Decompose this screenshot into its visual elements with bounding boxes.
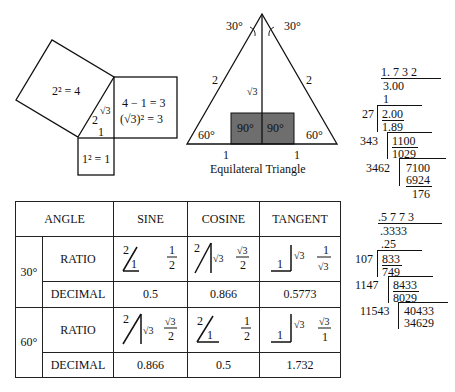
- header-sine: SINE: [114, 202, 188, 237]
- header-angle: ANGLE: [16, 202, 114, 237]
- left-half-base: 1: [223, 148, 229, 162]
- step-2: 1100 1029: [387, 132, 432, 159]
- sine-30-triangle-icon: 2 1 1 2: [115, 237, 187, 277]
- step-3: 40433 34629: [398, 302, 448, 329]
- svg-text:1: 1: [277, 257, 283, 271]
- cosine-60-ratio: 2 1 1 2: [188, 308, 260, 353]
- product-3: 6924: [406, 174, 432, 187]
- svg-text:1: 1: [131, 257, 137, 271]
- svg-text:2: 2: [194, 241, 200, 255]
- vertical-leg-length: √3: [100, 105, 111, 116]
- sine-30-ratio: 2 1 1 2: [114, 237, 188, 282]
- sine-60-decimal: 0.866: [114, 353, 188, 378]
- top-right-angle: 30°: [284, 19, 301, 33]
- svg-text:2: 2: [244, 329, 250, 343]
- header-tangent: TANGENT: [260, 202, 341, 237]
- svg-text:√3: √3: [143, 325, 154, 336]
- equilateral-triangle-diagram: 30° 30° 2 2 √3 60° 60° 90° 90° 1 1 Equil…: [180, 0, 340, 180]
- angle-60: 60°: [16, 308, 43, 378]
- triangle-caption: Equilateral Triangle: [210, 162, 306, 176]
- quotient: .5 7 7 3: [378, 211, 442, 224]
- right-half-base: 1: [294, 148, 300, 162]
- svg-text:√3: √3: [294, 250, 305, 261]
- svg-text:√3: √3: [294, 319, 305, 330]
- altitude-length: √3: [247, 86, 258, 97]
- table-row-60-ratio: 60° RATIO 2 √3 √3 2 2 1 1 2: [16, 308, 341, 353]
- first-subtract: 1: [383, 93, 389, 105]
- header-cosine: COSINE: [188, 202, 260, 237]
- big-square-label: 2² = 4: [52, 84, 80, 98]
- tangent-60-triangle-icon: 1 √3 √3 1: [261, 308, 339, 348]
- svg-text:1: 1: [207, 328, 213, 342]
- cosine-60-triangle-icon: 2 1 1 2: [189, 308, 259, 348]
- svg-text:1: 1: [169, 243, 175, 257]
- cosine-30-ratio: 2 √3 √3 2: [188, 237, 260, 282]
- svg-text:1: 1: [323, 243, 329, 257]
- sine-30-decimal: 0.5: [114, 282, 188, 308]
- divisor-1: 107: [355, 253, 373, 265]
- decimal-label: DECIMAL: [43, 282, 114, 308]
- cosine-30-decimal: 0.866: [188, 282, 260, 308]
- divisor-3: 11543: [360, 305, 390, 317]
- step-1: 833 749: [377, 250, 422, 277]
- svg-text:1: 1: [322, 330, 328, 344]
- svg-text:√3: √3: [213, 253, 224, 264]
- step-3: 7100 6924: [399, 158, 446, 186]
- base-leg-length: 1: [98, 125, 104, 139]
- cosine-60-decimal: 0.5: [188, 353, 260, 378]
- svg-text:√3: √3: [318, 261, 329, 272]
- tangent-30-decimal: 0.5773: [260, 282, 341, 308]
- right-base-angle: 60°: [306, 128, 323, 142]
- tangent-30-triangle-icon: 1 √3 1 √3: [261, 237, 339, 277]
- svg-text:2: 2: [197, 314, 203, 328]
- ratio-label: RATIO: [43, 308, 114, 353]
- small-square-label: 1² = 1: [82, 152, 110, 166]
- tangent-60-decimal: 1.732: [260, 353, 341, 378]
- svg-text:2: 2: [169, 258, 175, 272]
- divisor-2: 1147: [355, 279, 379, 291]
- right-90-label: 90°: [267, 121, 284, 135]
- trig-ratio-table: ANGLE SINE COSINE TANGENT 30° RATIO 2 1 …: [15, 201, 341, 378]
- divisor-1: 27: [362, 108, 374, 120]
- step-2: 8433 8029: [388, 276, 433, 303]
- svg-text:1: 1: [277, 328, 283, 342]
- product-3: 34629: [404, 317, 448, 329]
- svg-text:2: 2: [123, 312, 129, 326]
- divisor-2: 343: [360, 135, 378, 147]
- decimal-label: DECIMAL: [43, 353, 114, 378]
- right-square-line2: (√3)² = 3: [120, 112, 163, 126]
- first-subtract: .25: [381, 238, 396, 250]
- svg-text:√3: √3: [319, 316, 330, 327]
- header-row: ANGLE SINE COSINE TANGENT: [16, 202, 341, 237]
- step-1: 2.00 1.89: [377, 105, 422, 132]
- cosine-30-triangle-icon: 2 √3 √3 2: [189, 237, 259, 277]
- remainder: 176: [412, 188, 430, 200]
- table-row-60-decimal: DECIMAL 0.866 0.5 1.732: [16, 353, 341, 378]
- radicand: 3.00: [383, 80, 404, 92]
- svg-text:2: 2: [123, 243, 129, 257]
- right-side-length: 2: [306, 73, 312, 87]
- svg-text:2: 2: [168, 329, 174, 343]
- table-row-30-decimal: DECIMAL 0.5 0.866 0.5773: [16, 282, 341, 308]
- ratio-label: RATIO: [43, 237, 114, 282]
- svg-text:√3: √3: [165, 316, 176, 327]
- sine-60-ratio: 2 √3 √3 2: [114, 308, 188, 353]
- table-row-30-ratio: 30° RATIO 2 1 1 2 2 √3 √3 2: [16, 237, 341, 282]
- svg-text:√3: √3: [237, 245, 248, 256]
- svg-text:2: 2: [240, 258, 246, 272]
- right-square-line1: 4 − 1 = 3: [122, 96, 166, 110]
- divisor-3: 3462: [366, 162, 390, 174]
- angle-30: 30°: [16, 237, 43, 308]
- tangent-60-ratio: 1 √3 √3 1: [260, 308, 341, 353]
- left-90-label: 90°: [237, 121, 254, 135]
- left-side-length: 2: [212, 73, 218, 87]
- quotient: 1. 7 3 2: [381, 66, 441, 79]
- sine-60-triangle-icon: 2 √3 √3 2: [115, 308, 187, 348]
- svg-text:1: 1: [244, 314, 250, 328]
- radicand: .3333: [380, 225, 407, 237]
- top-left-angle: 30°: [226, 19, 243, 33]
- pythagorean-diagram: 2² = 4 4 − 1 = 3 (√3)² = 3 1² = 1 2 √3 1: [0, 0, 180, 190]
- left-base-angle: 60°: [198, 128, 215, 142]
- tangent-30-ratio: 1 √3 1 √3: [260, 237, 341, 282]
